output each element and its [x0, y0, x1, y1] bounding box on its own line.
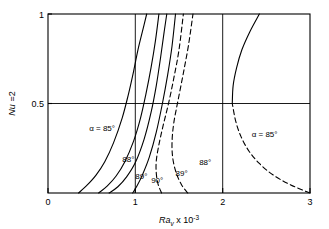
y-tick-label-0point5: 0.5 — [31, 99, 44, 109]
curve-label-5: 88° — [199, 158, 211, 167]
y-axis-title-nu: Nu — [7, 104, 17, 116]
chart-figure: α = 85°88°89°90°89°88°α = 85° 0 1 2 3 0.… — [0, 0, 329, 229]
y-axis-title: Nu =2 — [7, 91, 17, 115]
x-axis-title-ra: Ra — [159, 215, 171, 225]
chart-canvas: α = 85°88°89°90°89°88°α = 85° 0 1 2 3 0.… — [0, 0, 329, 229]
x-axis-title-mul: x 10 — [174, 215, 194, 225]
curve-label-1: 88° — [122, 155, 134, 164]
x-tick-label-2: 2 — [220, 197, 225, 207]
chart-background — [0, 0, 329, 229]
x-tick-label-0: 0 — [45, 197, 50, 207]
x-tick-label-3: 3 — [307, 197, 312, 207]
curve-label-2: 89° — [135, 172, 147, 181]
curve-label-4: 89° — [176, 169, 188, 178]
x-tick-label-1: 1 — [133, 197, 138, 207]
curve-label-0: α = 85° — [89, 124, 115, 133]
curve-label-6: α = 85° — [252, 130, 278, 139]
y-tick-label-1: 1 — [39, 10, 44, 20]
y-axis-title-eq: =2 — [7, 91, 17, 104]
curve-label-3: 90° — [151, 176, 163, 185]
x-axis-title-exp: -3 — [193, 214, 199, 221]
